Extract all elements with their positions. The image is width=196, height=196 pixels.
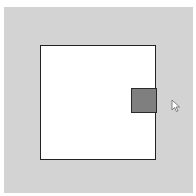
draggable-block[interactable] [131,88,157,113]
